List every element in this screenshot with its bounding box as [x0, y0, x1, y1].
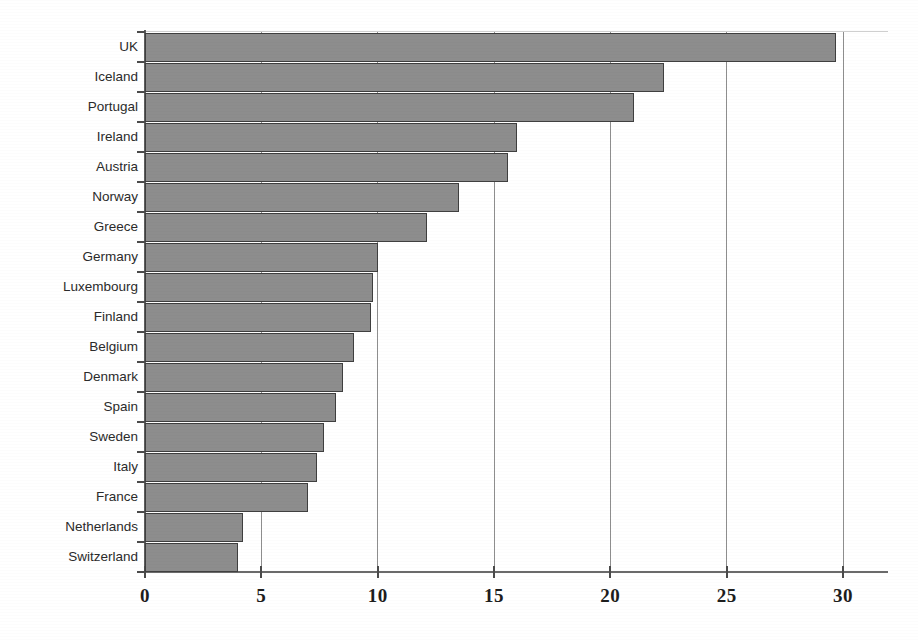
- x-tick-label-30: 30: [833, 585, 853, 607]
- y-tick-mark-2: [137, 91, 145, 93]
- bar-france: [145, 483, 308, 512]
- y-tick-mark-10: [137, 331, 145, 333]
- bar-greece: [145, 213, 427, 242]
- y-tick-mark-17: [137, 541, 145, 543]
- bar-uk: [145, 33, 836, 62]
- y-tick-mark-4: [137, 151, 145, 153]
- category-label-italy: Italy: [113, 460, 138, 474]
- category-label-greece: Greece: [94, 220, 138, 234]
- y-tick-mark-7: [137, 241, 145, 243]
- category-label-sweden: Sweden: [89, 430, 138, 444]
- category-label-finland: Finland: [94, 310, 138, 324]
- category-label-switzerland: Switzerland: [68, 550, 138, 564]
- bar-iceland: [145, 63, 664, 92]
- bar-sweden: [145, 423, 324, 452]
- x-tick-mark-25: [726, 566, 728, 578]
- x-tick-label-10: 10: [368, 585, 388, 607]
- x-tick-label-20: 20: [600, 585, 620, 607]
- category-label-uk: UK: [119, 40, 138, 54]
- bar-finland: [145, 303, 371, 332]
- bar-switzerland: [145, 543, 238, 572]
- y-tick-mark-3: [137, 121, 145, 123]
- y-tick-mark-14: [137, 451, 145, 453]
- category-label-spain: Spain: [103, 400, 138, 414]
- bar-ireland: [145, 123, 517, 152]
- x-tick-mark-20: [609, 566, 611, 578]
- x-tick-mark-30: [842, 566, 844, 578]
- x-tick-mark-5: [260, 566, 262, 578]
- bar-luxembourg: [145, 273, 373, 302]
- bar-netherlands: [145, 513, 243, 542]
- y-tick-mark-9: [137, 301, 145, 303]
- y-tick-mark-13: [137, 421, 145, 423]
- x-tick-mark-10: [377, 566, 379, 578]
- x-tick-mark-15: [493, 566, 495, 578]
- y-tick-mark-16: [137, 511, 145, 513]
- bar-chart: 051015202530 UKIcelandPortugalIrelandAus…: [0, 0, 918, 641]
- category-label-france: France: [96, 490, 138, 504]
- y-tick-mark-15: [137, 481, 145, 483]
- x-tick-label-25: 25: [717, 585, 737, 607]
- y-tick-mark-11: [137, 361, 145, 363]
- category-label-iceland: Iceland: [94, 70, 138, 84]
- bar-norway: [145, 183, 459, 212]
- category-label-netherlands: Netherlands: [65, 520, 138, 534]
- x-tick-label-15: 15: [484, 585, 504, 607]
- bar-austria: [145, 153, 508, 182]
- y-tick-mark-12: [137, 391, 145, 393]
- bar-italy: [145, 453, 317, 482]
- category-label-portugal: Portugal: [88, 100, 138, 114]
- y-tick-mark-8: [137, 271, 145, 273]
- y-tick-mark-end: [137, 571, 145, 573]
- y-tick-mark-1: [137, 61, 145, 63]
- x-axis-line: [144, 571, 888, 573]
- category-label-luxembourg: Luxembourg: [63, 280, 138, 294]
- x-tick-label-0: 0: [140, 585, 150, 607]
- category-label-denmark: Denmark: [83, 370, 138, 384]
- y-tick-mark-0: [137, 31, 145, 33]
- gridline-30: [843, 32, 844, 572]
- y-tick-mark-6: [137, 211, 145, 213]
- gridline-25: [726, 32, 727, 572]
- y-tick-mark-5: [137, 181, 145, 183]
- category-label-belgium: Belgium: [89, 340, 138, 354]
- category-label-germany: Germany: [82, 250, 138, 264]
- category-label-austria: Austria: [96, 160, 138, 174]
- bar-spain: [145, 393, 336, 422]
- category-label-ireland: Ireland: [97, 130, 138, 144]
- bar-denmark: [145, 363, 343, 392]
- category-label-norway: Norway: [92, 190, 138, 204]
- bar-germany: [145, 243, 378, 272]
- x-tick-label-5: 5: [256, 585, 266, 607]
- bar-portugal: [145, 93, 634, 122]
- bar-belgium: [145, 333, 354, 362]
